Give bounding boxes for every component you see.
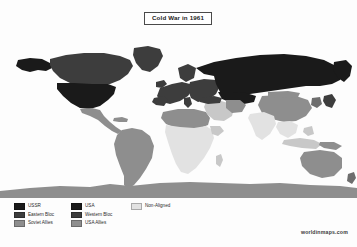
legend-swatch-soviet-allies bbox=[14, 220, 25, 227]
legend-swatch-usa-allies bbox=[71, 220, 82, 227]
legend-label-usa: USA bbox=[85, 204, 94, 209]
legend-item-western-bloc: Western Bloc bbox=[71, 212, 131, 219]
legend-swatch-non-aligned bbox=[131, 203, 142, 210]
map-figure: Cold War in 1961 bbox=[0, 0, 357, 247]
legend-row: USSR USA Non-Aligned bbox=[14, 203, 201, 210]
legend-row: Soviet Allies USA Allies bbox=[14, 220, 201, 227]
legend-item-ussr: USSR bbox=[14, 203, 71, 210]
legend-label-western-bloc: Western Bloc bbox=[85, 213, 112, 218]
map-title-box: Cold War in 1961 bbox=[144, 12, 212, 25]
legend-label-eastern-bloc: Eastern Bloc bbox=[28, 213, 54, 218]
legend-label-usa-allies: USA Allies bbox=[85, 221, 106, 226]
legend-row: Eastern Bloc Western Bloc bbox=[14, 212, 201, 219]
legend-label-soviet-allies: Soviet Allies bbox=[28, 221, 53, 226]
legend-item-usa: USA bbox=[71, 203, 131, 210]
legend-swatch-western-bloc bbox=[71, 212, 82, 219]
watermark: worldinmaps.com bbox=[301, 229, 348, 235]
legend-label-non-aligned: Non-Aligned bbox=[145, 204, 170, 209]
legend-label-ussr: USSR bbox=[28, 204, 41, 209]
legend-item-non-aligned: Non-Aligned bbox=[131, 203, 201, 210]
legend-swatch-eastern-bloc bbox=[14, 212, 25, 219]
page-title: Cold War in 1961 bbox=[152, 15, 204, 21]
legend-item-usa-allies: USA Allies bbox=[71, 220, 131, 227]
legend-item-eastern-bloc: Eastern Bloc bbox=[14, 212, 71, 219]
map-legend: USSR USA Non-Aligned Eastern Bloc Wester… bbox=[14, 203, 201, 229]
legend-swatch-ussr bbox=[14, 203, 25, 210]
legend-item-soviet-allies: Soviet Allies bbox=[14, 220, 71, 227]
world-map bbox=[0, 26, 357, 198]
legend-swatch-usa bbox=[71, 203, 82, 210]
world-map-svg bbox=[0, 26, 357, 198]
